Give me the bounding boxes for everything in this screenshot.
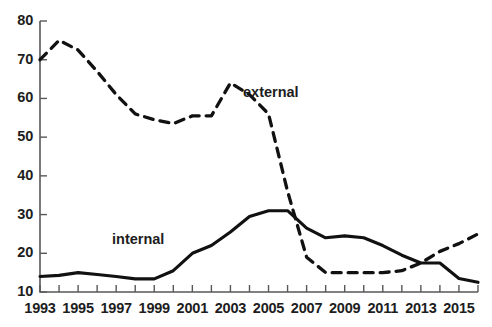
y-tick-label: 70 xyxy=(0,51,33,67)
y-tick-label: 40 xyxy=(0,167,33,183)
y-tick-label: 50 xyxy=(0,128,33,144)
series-label-external: external xyxy=(243,84,299,100)
y-tick-label: 10 xyxy=(0,283,33,299)
y-tick-label: 30 xyxy=(0,206,33,222)
chart-axes xyxy=(40,21,478,292)
axis-lines xyxy=(40,21,478,292)
y-tick-label: 20 xyxy=(0,244,33,260)
y-tick-label: 60 xyxy=(0,89,33,105)
chart-plot-area xyxy=(0,0,492,327)
series-line-external xyxy=(40,40,478,272)
x-tick-label: 2015 xyxy=(434,300,484,316)
y-tick-label: 80 xyxy=(0,12,33,28)
line-chart: 8070605040302010 19931995199719992001200… xyxy=(0,0,492,327)
series-label-internal: internal xyxy=(112,231,164,247)
y-axis-ticks xyxy=(40,21,47,292)
chart-series-group xyxy=(40,40,478,282)
series-line-internal xyxy=(40,211,478,283)
x-axis-ticks xyxy=(40,285,478,292)
